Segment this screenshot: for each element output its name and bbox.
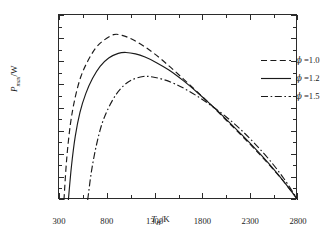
y-tick-major bbox=[59, 38, 64, 39]
x-tick-minor bbox=[179, 195, 180, 198]
y-tick-minor bbox=[59, 27, 62, 28]
y-tick-minor bbox=[59, 73, 62, 74]
y-tick-minor bbox=[59, 142, 62, 143]
legend-value: =1.5 bbox=[302, 91, 320, 101]
x-tick-minor bbox=[83, 195, 84, 198]
y-tick-major bbox=[59, 61, 64, 62]
legend-line-sample-icon bbox=[261, 92, 291, 101]
y-tick-major-right bbox=[291, 199, 296, 200]
x-tick-major-top bbox=[155, 15, 156, 20]
y-tick-major-right bbox=[291, 15, 296, 16]
x-tick-label: 1800 bbox=[182, 217, 222, 226]
y-tick-major bbox=[59, 154, 64, 155]
x-tick-major-top bbox=[250, 15, 251, 20]
y-tick-minor bbox=[59, 165, 62, 166]
y-tick-major bbox=[59, 84, 64, 85]
legend-label: ϕ =1.0 bbox=[296, 56, 320, 65]
x-tick-minor bbox=[131, 195, 132, 198]
y-axis-title: Pmax/W bbox=[9, 66, 19, 93]
x-tick-major-top bbox=[297, 15, 298, 20]
y-tick-minor-right bbox=[293, 50, 296, 51]
y-tick-major bbox=[59, 177, 64, 178]
y-tick-minor bbox=[59, 119, 62, 120]
x-tick-label: 1300 bbox=[135, 217, 175, 226]
y-tick-minor bbox=[59, 50, 62, 51]
y-tick-minor bbox=[59, 188, 62, 189]
y-tick-major-right bbox=[291, 131, 296, 132]
legend-value: =1.0 bbox=[302, 55, 320, 65]
legend-value: =1.2 bbox=[302, 73, 320, 83]
legend-line-sample-icon bbox=[261, 56, 291, 65]
x-tick-label: 2300 bbox=[230, 217, 270, 226]
x-tick-label: 800 bbox=[87, 217, 127, 226]
x-tick-minor-top bbox=[179, 15, 180, 18]
chart-curves bbox=[59, 15, 298, 200]
legend-label: ϕ =1.5 bbox=[296, 92, 320, 101]
x-tick-minor-top bbox=[131, 15, 132, 18]
plot-area: 01×1042×1043×1044×1045×1046×1047×1048×10… bbox=[58, 14, 297, 199]
y-axis-subscript: max bbox=[15, 77, 21, 87]
y-tick-major-right bbox=[291, 154, 296, 155]
y-tick-minor-right bbox=[293, 165, 296, 166]
x-tick-label: 300 bbox=[39, 217, 79, 226]
x-tick-major bbox=[59, 193, 60, 198]
x-tick-major-top bbox=[202, 15, 203, 20]
y-tick-minor-right bbox=[293, 119, 296, 120]
y-tick-major bbox=[59, 199, 64, 200]
y-axis-unit: /W bbox=[9, 66, 19, 77]
x-tick-major bbox=[250, 193, 251, 198]
x-tick-major bbox=[297, 193, 298, 198]
chart-legend: ϕ =1.0ϕ =1.2ϕ =1.5 bbox=[261, 55, 320, 101]
x-tick-major-top bbox=[107, 15, 108, 20]
legend-item-2[interactable]: ϕ =1.2 bbox=[261, 73, 320, 83]
y-tick-major-right bbox=[291, 38, 296, 39]
y-tick-minor-right bbox=[293, 27, 296, 28]
y-tick-minor-right bbox=[293, 142, 296, 143]
y-tick-major bbox=[59, 108, 64, 109]
legend-item-3[interactable]: ϕ =1.5 bbox=[261, 91, 320, 101]
y-tick-minor bbox=[59, 96, 62, 97]
x-tick-minor bbox=[226, 195, 227, 198]
y-tick-minor-right bbox=[293, 188, 296, 189]
x-tick-minor-top bbox=[83, 15, 84, 18]
x-tick-minor bbox=[274, 195, 275, 198]
legend-line-sample-icon bbox=[261, 74, 291, 83]
y-tick-major bbox=[59, 131, 64, 132]
x-tick-minor-top bbox=[226, 15, 227, 18]
x-tick-label: 2800 bbox=[278, 217, 318, 226]
legend-item-1[interactable]: ϕ =1.0 bbox=[261, 55, 320, 65]
x-tick-major bbox=[155, 193, 156, 198]
x-tick-major bbox=[202, 193, 203, 198]
y-axis-symbol: P bbox=[9, 87, 19, 93]
y-tick-major-right bbox=[291, 108, 296, 109]
x-tick-minor-top bbox=[274, 15, 275, 18]
legend-label: ϕ =1.2 bbox=[296, 74, 320, 83]
x-tick-major-top bbox=[59, 15, 60, 20]
y-tick-major-right bbox=[291, 177, 296, 178]
x-tick-major bbox=[107, 193, 108, 198]
chart-figure: Pmax/W TH/K 01×1042×1043×1044×1045×1046×… bbox=[0, 0, 321, 244]
